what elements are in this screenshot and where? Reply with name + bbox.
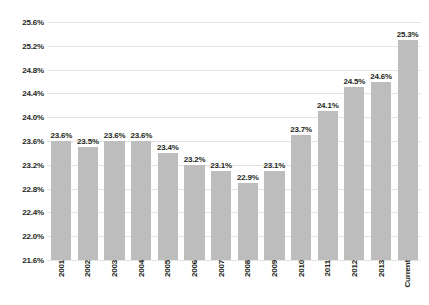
x-axis-tick-label: 2012 bbox=[350, 260, 359, 277]
bar-slot: 23.6% bbox=[101, 22, 128, 260]
bar-value-label: 22.9% bbox=[237, 173, 259, 182]
plot-area: 23.6%23.5%23.6%23.6%23.4%23.2%23.1%22.9%… bbox=[48, 22, 421, 260]
x-axis-tick-slot: 2001 bbox=[48, 260, 75, 305]
bar-slot: 24.6% bbox=[368, 22, 395, 260]
x-axis-tick-label: Current bbox=[403, 260, 412, 288]
bar-chart: 25.6%25.2%24.8%24.4%24.0%23.6%23.2%22.8%… bbox=[0, 0, 429, 305]
bar-value-label: 23.5% bbox=[77, 137, 99, 146]
y-axis-tick-label: 25.2% bbox=[22, 41, 44, 50]
bar-slot: 24.1% bbox=[314, 22, 341, 260]
y-axis-tick-label: 24.8% bbox=[22, 65, 44, 74]
bar: 25.3% bbox=[398, 40, 418, 260]
bar: 23.6% bbox=[51, 141, 71, 260]
y-axis-tick-label: 24.0% bbox=[22, 113, 44, 122]
bar-slot: 25.3% bbox=[394, 22, 421, 260]
x-axis-tick-label: 2002 bbox=[83, 260, 92, 277]
bar-slot: 23.2% bbox=[181, 22, 208, 260]
y-axis-tick-label: 25.6% bbox=[22, 18, 44, 27]
x-axis-tick-label: 2007 bbox=[217, 260, 226, 277]
bar-slot: 23.6% bbox=[128, 22, 155, 260]
bar-slot: 23.7% bbox=[288, 22, 315, 260]
bar: 23.7% bbox=[291, 135, 311, 260]
x-axis: 2001200220032004200520062007200820092010… bbox=[48, 260, 421, 305]
x-axis-tick-slot: 2004 bbox=[128, 260, 155, 305]
x-axis-tick-label: 2003 bbox=[110, 260, 119, 277]
bar-slot: 24.5% bbox=[341, 22, 368, 260]
x-axis-tick-label: 2006 bbox=[190, 260, 199, 277]
x-axis-tick-slot: 2002 bbox=[75, 260, 102, 305]
y-axis-tick-label: 23.6% bbox=[22, 137, 44, 146]
x-axis-tick-label: 2005 bbox=[163, 260, 172, 277]
y-axis-tick-label: 21.6% bbox=[22, 256, 44, 265]
y-axis-tick-label: 24.4% bbox=[22, 89, 44, 98]
bar-value-label: 23.6% bbox=[104, 131, 126, 140]
bar: 24.5% bbox=[344, 87, 364, 260]
bar-value-label: 24.5% bbox=[344, 77, 366, 86]
x-axis-tick-slot: 2010 bbox=[288, 260, 315, 305]
x-axis-tick-label: 2013 bbox=[377, 260, 386, 277]
bar: 22.9% bbox=[238, 183, 258, 260]
x-axis-tick-label: 2009 bbox=[270, 260, 279, 277]
bar: 23.1% bbox=[264, 171, 284, 260]
y-axis-tick-label: 22.4% bbox=[22, 208, 44, 217]
bar-slot: 23.1% bbox=[208, 22, 235, 260]
x-axis-tick-slot: 2008 bbox=[234, 260, 261, 305]
x-axis-tick-slot: 2007 bbox=[208, 260, 235, 305]
bar: 24.1% bbox=[318, 111, 338, 260]
bar-value-label: 23.2% bbox=[184, 155, 206, 164]
y-axis-tick-label: 23.2% bbox=[22, 160, 44, 169]
x-axis-tick-label: 2004 bbox=[137, 260, 146, 277]
bar-slot: 23.4% bbox=[155, 22, 182, 260]
bar-value-label: 24.1% bbox=[317, 101, 339, 110]
bar-series: 23.6%23.5%23.6%23.6%23.4%23.2%23.1%22.9%… bbox=[48, 22, 421, 260]
x-axis-tick-slot: 2009 bbox=[261, 260, 288, 305]
bar-value-label: 23.4% bbox=[157, 143, 179, 152]
bar-value-label: 23.6% bbox=[50, 131, 72, 140]
bar-slot: 23.6% bbox=[48, 22, 75, 260]
x-axis-tick-slot: 2005 bbox=[155, 260, 182, 305]
x-axis-tick-slot: Current bbox=[394, 260, 421, 305]
x-axis-tick-label: 2010 bbox=[297, 260, 306, 277]
bar-value-label: 23.1% bbox=[210, 161, 232, 170]
x-axis-tick-label: 2001 bbox=[57, 260, 66, 277]
bar-slot: 22.9% bbox=[234, 22, 261, 260]
x-axis-tick-label: 2008 bbox=[243, 260, 252, 277]
y-axis-tick-label: 22.0% bbox=[22, 232, 44, 241]
x-axis-tick-slot: 2006 bbox=[181, 260, 208, 305]
bar: 23.4% bbox=[158, 153, 178, 260]
bar-slot: 23.5% bbox=[75, 22, 102, 260]
bar-slot: 23.1% bbox=[261, 22, 288, 260]
x-axis-tick-slot: 2012 bbox=[341, 260, 368, 305]
x-axis-tick-slot: 2011 bbox=[314, 260, 341, 305]
y-axis: 25.6%25.2%24.8%24.4%24.0%23.6%23.2%22.8%… bbox=[0, 22, 44, 260]
bar: 23.6% bbox=[131, 141, 151, 260]
bar-value-label: 24.6% bbox=[370, 72, 392, 81]
bar: 24.6% bbox=[371, 82, 391, 261]
bar-value-label: 23.7% bbox=[290, 125, 312, 134]
bar-value-label: 25.3% bbox=[397, 30, 419, 39]
x-axis-tick-slot: 2013 bbox=[368, 260, 395, 305]
x-axis-tick-slot: 2003 bbox=[101, 260, 128, 305]
bar: 23.1% bbox=[211, 171, 231, 260]
bar: 23.2% bbox=[184, 165, 204, 260]
y-axis-tick-label: 22.8% bbox=[22, 184, 44, 193]
bar: 23.6% bbox=[104, 141, 124, 260]
bar: 23.5% bbox=[78, 147, 98, 260]
x-axis-tick-label: 2011 bbox=[323, 260, 332, 277]
bar-value-label: 23.6% bbox=[130, 131, 152, 140]
bar-value-label: 23.1% bbox=[264, 161, 286, 170]
